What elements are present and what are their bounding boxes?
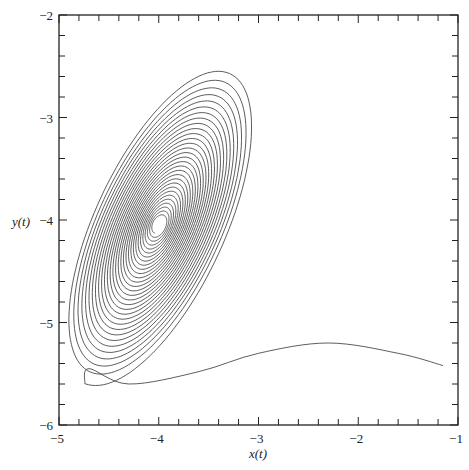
x-tick-label: −3 xyxy=(250,431,264,446)
y-axis-title: y(t) xyxy=(10,214,30,229)
y-tick-label: −3 xyxy=(39,111,53,126)
x-tick-labels: −5−4−3−2−1 xyxy=(50,431,463,446)
phase-plane-chart: −5−4−3−2−1 −6−5−4−3−2 x(t) y(t) xyxy=(0,0,469,470)
x-tick-label: −2 xyxy=(349,431,363,446)
y-tick-label: −4 xyxy=(39,213,53,228)
x-axis-title: x(t) xyxy=(248,446,267,461)
y-tick-label: −6 xyxy=(39,418,53,433)
x-tick-label: −5 xyxy=(50,431,64,446)
y-tick-label: −5 xyxy=(39,316,53,331)
axis-ticks xyxy=(59,15,458,425)
x-tick-label: −1 xyxy=(449,431,463,446)
y-tick-labels: −6−5−4−3−2 xyxy=(39,8,53,433)
trajectory-curve xyxy=(69,71,443,385)
y-tick-label: −2 xyxy=(39,8,53,23)
x-tick-label: −4 xyxy=(150,431,164,446)
trajectory-path xyxy=(69,71,443,385)
plot-frame xyxy=(59,15,458,425)
